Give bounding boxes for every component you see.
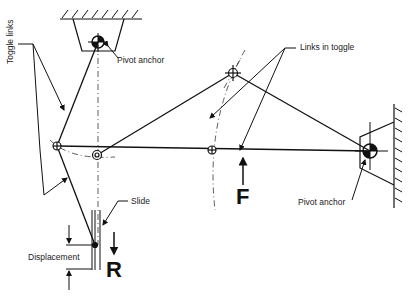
slide-leader — [103, 201, 128, 225]
links-in-toggle-leaders — [210, 48, 296, 150]
construction-lines — [50, 45, 245, 245]
pivot-leader-right — [352, 160, 365, 200]
displacement-label: Displacement — [28, 252, 80, 262]
joint-icons — [53, 65, 241, 248]
pivot-anchor-top-label: Pivot anchor — [117, 55, 164, 65]
links-in-toggle-label: Links in toggle — [300, 42, 355, 52]
toggle-links-leaders — [18, 44, 67, 195]
top-ground-anchor — [60, 10, 142, 51]
toggle-links — [57, 42, 370, 245]
toggle-links-label: Toggle links — [5, 20, 15, 64]
force-f-label: F — [236, 184, 249, 209]
toggle-mechanism-diagram: Pivot anchor Pivot anchor — [0, 0, 413, 300]
force-r-label: R — [106, 257, 122, 282]
slide-label: Slide — [131, 196, 150, 206]
pivot-anchor-right-label: Pivot anchor — [298, 197, 345, 207]
